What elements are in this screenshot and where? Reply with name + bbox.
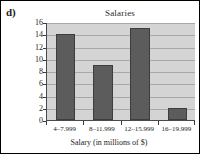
y-axis-label-group: 0246810121416: [27, 23, 43, 120]
x-axis-tick-mark: [194, 121, 195, 125]
x-axis-label-group: 4–7.9998–11.99912–15.99916–19.999: [46, 126, 195, 136]
x-axis-tick-label: 8–11.999: [89, 126, 115, 133]
y-axis-tick-label: 4: [29, 93, 43, 101]
y-axis-tick-label: 16: [29, 19, 43, 27]
bar: [93, 65, 112, 120]
x-axis-title: Salary (in millions of $): [21, 139, 197, 147]
gridline: [47, 23, 195, 24]
y-axis-tick-label: 8: [29, 68, 43, 76]
x-axis-tick-mark: [158, 121, 159, 125]
part-label: d): [6, 7, 16, 18]
figure-container: d) Salaries 0246810121416 4–7.9998–11.99…: [0, 0, 200, 154]
y-axis-tick-label: 6: [29, 80, 43, 88]
y-axis-tick-label: 2: [29, 105, 43, 113]
x-axis-tick-label: 4–7.999: [53, 126, 76, 133]
x-axis-tick-mark: [83, 121, 84, 125]
chart-title: Salaries: [45, 9, 195, 18]
y-axis-tick-label: 14: [29, 31, 43, 39]
y-axis-tick-label: 0: [29, 117, 43, 125]
x-axis-tick-label: 16–19.999: [162, 126, 192, 133]
bar: [168, 108, 187, 120]
bar: [130, 28, 149, 120]
y-axis-tick-label: 10: [29, 56, 43, 64]
x-axis-tick-label: 12–15.999: [124, 126, 154, 133]
y-axis-tick-label: 12: [29, 44, 43, 52]
bar: [56, 34, 75, 120]
x-axis-tick-mark: [121, 121, 122, 125]
plot-area: [46, 23, 195, 121]
x-axis-tick-mark: [46, 121, 47, 125]
